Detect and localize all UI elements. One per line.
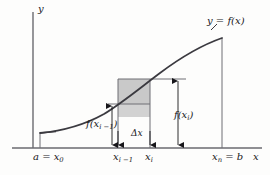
x-axis-label: x (253, 152, 259, 162)
tick-label-xi-minus-1-sub: i −1 (119, 156, 133, 164)
figure-canvas (0, 0, 270, 175)
value-label-f-xi-minus-1-sub: i −1 (99, 123, 113, 131)
value-label-f-xi-minus-1-tail: ) (114, 118, 118, 129)
tick-label-xn-equals-b: xn = b (212, 152, 243, 163)
value-label-f-xi-main: f(x (174, 109, 187, 120)
curve-equation-label: y = f(x) (207, 16, 245, 26)
value-label-f-xi: f(xi) (174, 110, 193, 121)
tick-label-xn-equals-b-tail: = b (222, 151, 243, 162)
width-label-delta-x: Δx (131, 129, 143, 138)
tick-label-xi: xi (145, 152, 153, 163)
value-label-f-xi-tail: ) (189, 109, 193, 120)
value-label-f-xi-minus-1: f(xi −1) (86, 119, 118, 130)
tick-label-a-equals-x0: a = x0 (33, 152, 64, 163)
tick-label-xi-sub: i (151, 156, 153, 164)
tick-label-a-equals-x0-sub: 0 (59, 156, 63, 164)
y-axis-label: y (38, 4, 44, 14)
riemann-sum-figure: y x y = f(x) a = x0 xn = b xi −1 xi f(xi… (0, 0, 270, 175)
value-label-f-xi-minus-1-main: f(x (86, 118, 99, 129)
tick-label-a-equals-x0-main: a = x (33, 151, 59, 162)
tick-label-xi-minus-1: xi −1 (113, 152, 133, 163)
